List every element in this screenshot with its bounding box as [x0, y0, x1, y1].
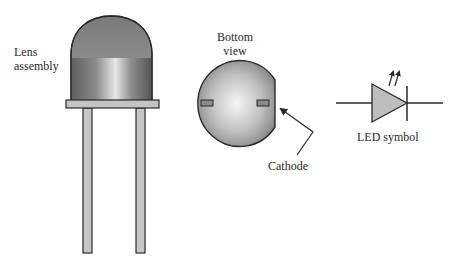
- bottom-view-label: Bottom view: [210, 30, 260, 58]
- cathode-pad: [257, 100, 269, 106]
- cathode-label: Cathode: [268, 159, 308, 173]
- bottom-view: [198, 61, 275, 147]
- light-emission-arrow-icon: [389, 72, 393, 86]
- light-emission-arrow-icon: [395, 72, 399, 86]
- led-schematic-symbol: [336, 72, 443, 122]
- lens-label-line1: Lens: [14, 45, 59, 59]
- leads: [83, 108, 145, 253]
- diode-triangle-icon: [372, 84, 407, 122]
- anode-lead: [83, 108, 92, 253]
- lens-assembly-label: Lens assembly: [14, 45, 59, 73]
- led-symbol-label: LED symbol: [357, 130, 419, 144]
- bottom-label-line1: Bottom: [210, 30, 260, 44]
- lens-cylinder: [72, 58, 152, 100]
- lens-label-line2: assembly: [14, 59, 59, 73]
- cathode-lead: [136, 108, 145, 253]
- base-flange: [66, 100, 159, 108]
- bottom-label-line2: view: [210, 44, 260, 58]
- cathode-arrow-icon: [281, 109, 313, 155]
- anode-pad: [201, 100, 213, 106]
- cathode-pointer: [281, 109, 313, 155]
- lens-assembly: [66, 16, 159, 108]
